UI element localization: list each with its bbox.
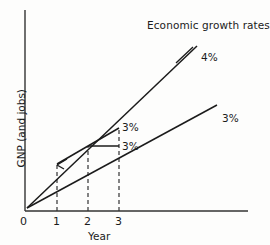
series-label-4-percent: 4% [201, 52, 218, 63]
title-leader-line [176, 47, 193, 63]
x-axis-tick-0: 0 [20, 216, 27, 227]
series-label-3-percent-branch-year1: 3% [122, 122, 139, 133]
series-line-4-percent [27, 46, 197, 208]
economic-growth-chart: Economic growth rates 4% 3% 3% 3% 0 1 2 … [0, 0, 270, 245]
x-axis-tick-3: 3 [115, 216, 122, 227]
x-axis-title: Year [88, 231, 110, 242]
y-axis-title: GNP (and jobs) [16, 73, 27, 183]
chart-title: Economic growth rates [147, 20, 270, 31]
series-label-3-percent: 3% [222, 113, 239, 124]
x-axis-tick-1: 1 [53, 216, 60, 227]
series-label-3-percent-branch-year2: 3% [122, 141, 139, 152]
x-axis-tick-2: 2 [84, 216, 91, 227]
